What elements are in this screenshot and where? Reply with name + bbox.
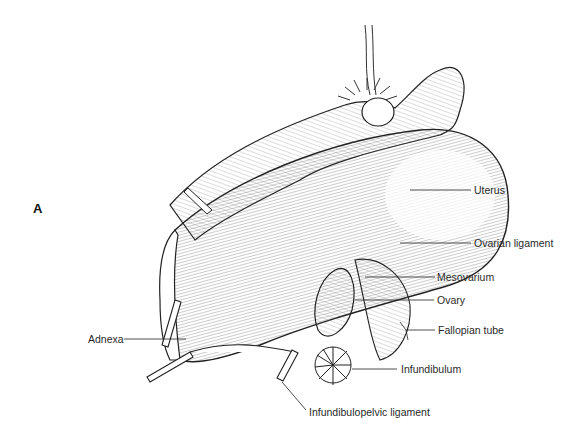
label-ovarian-ligament: Ovarian ligament [474,237,553,249]
label-ovary: Ovary [437,294,465,306]
label-infundibulum: Infundibulum [401,363,461,375]
label-adnexa: Adnexa [88,333,124,345]
label-mesovarium: Mesovarium [437,271,494,283]
label-fallopian-tube: Fallopian tube [438,324,504,336]
leader-infundibulopelvic [282,382,306,410]
infundibulum-fimbriae [315,347,351,385]
uterus-adnexa-illustration [0,0,582,441]
ovary-top [362,98,394,126]
label-uterus: Uterus [474,184,505,196]
fimbriae-top [338,78,397,100]
label-infundibulopelvic-ligament: Infundibulopelvic ligament [309,406,430,418]
